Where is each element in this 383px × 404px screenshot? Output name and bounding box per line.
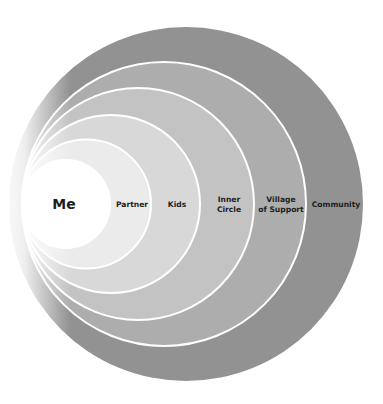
label-me: Me xyxy=(52,196,75,212)
label-inner-circle: InnerCircle xyxy=(217,195,241,214)
label-community: Community xyxy=(312,200,361,209)
support-circles-diagram: CommunityVillageof SupportInnerCircleKid… xyxy=(0,0,383,404)
label-kids: Kids xyxy=(168,200,187,209)
label-partner: Partner xyxy=(116,200,148,209)
